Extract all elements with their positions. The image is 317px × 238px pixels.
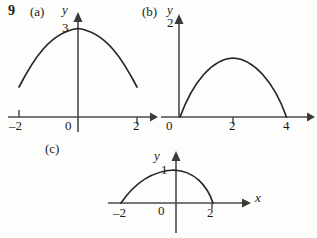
panel-c-origin-label: 0 [158,203,165,219]
panel-c-y-axis-label: y [154,148,160,164]
figure-page: 9 (a) y 3 0 –2 2 (b) [0,0,317,238]
panel-a-origin-label: 0 [65,118,72,134]
panel-b-x-mid-label: 2 [229,118,236,134]
panel-c-label: (c) [45,141,59,157]
panel-b-origin-label: 0 [166,118,173,134]
panel-a-y-axis-label: y [62,2,68,18]
panel-c-x-axis-label: x [255,190,261,206]
panel-c-x-right-label: 2 [207,205,214,221]
panel-b-curve [180,58,287,117]
panel-c-x-left-label: –2 [113,205,126,221]
panel-b-chart [155,0,317,140]
panel-b-y-arrow-icon [175,14,184,24]
panel-c-x-arrow-icon [242,199,251,208]
panel-b-x-arrow-icon [307,113,315,122]
panel-b-svg [155,0,317,140]
panel-c-y-value-label: 1 [161,162,168,178]
panel-a-x-right-label: 2 [133,118,140,134]
panel-a-y-value-label: 3 [62,20,69,36]
panel-b-y-value-label: 2 [167,15,174,31]
panel-c-y-arrow-icon [172,151,181,161]
panel-a-x-left-label: –2 [9,118,22,134]
panel-a-y-arrow-icon [74,12,83,22]
panel-b-x-right-label: 4 [283,118,290,134]
